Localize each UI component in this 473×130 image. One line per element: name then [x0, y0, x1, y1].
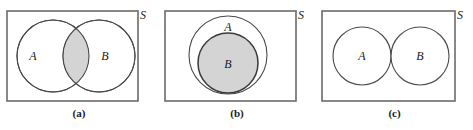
caption-panel-b: (b) [158, 107, 316, 119]
panel-b: A B S (b) [158, 0, 316, 130]
label-set-a-panel-c: A [357, 49, 366, 63]
label-set-a-panel-b: A [223, 20, 232, 34]
label-set-b-panel-c: B [416, 49, 424, 63]
label-set-b-panel-a: B [101, 49, 109, 63]
label-universe-panel-c: S [457, 8, 463, 22]
caption-panel-c: (c) [316, 107, 473, 119]
venn-diagram-figure: A B S (a) A B S (b) A B S (c) [0, 0, 473, 130]
panel-c: A B S (c) [316, 0, 473, 130]
label-set-b-panel-b: B [224, 57, 232, 71]
label-universe-panel-a: S [140, 8, 146, 22]
panel-a: A B S (a) [0, 0, 158, 130]
label-set-a-panel-a: A [28, 49, 37, 63]
caption-panel-a: (a) [0, 107, 158, 119]
label-universe-panel-b: S [298, 8, 304, 22]
